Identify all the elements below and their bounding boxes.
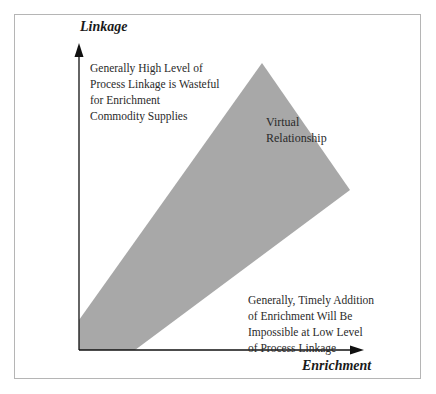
annotation-line: Generally, Timely Addition [248,292,374,308]
y-axis-title: Linkage [80,19,127,35]
upper-left-annotation: Generally High Level of Process Linkage … [90,60,220,124]
annotation-line: Impossible at Low Level [248,324,374,340]
annotation-line: Generally High Level of [90,60,220,76]
annotation-line: of Process Linkage [248,340,374,356]
region-label-line: Virtual [266,114,327,130]
annotation-line: of Enrichment Will Be [248,308,374,324]
lower-right-annotation: Generally, Timely Addition of Enrichment… [248,292,374,356]
y-axis-arrow-icon [75,43,84,57]
region-label: Virtual Relationship [266,114,327,146]
annotation-line: for Enrichment [90,92,220,108]
x-axis-title: Enrichment [302,358,371,374]
region-label-line: Relationship [266,130,327,146]
annotation-line: Commodity Supplies [90,108,220,124]
annotation-line: Process Linkage is Wasteful [90,76,220,92]
